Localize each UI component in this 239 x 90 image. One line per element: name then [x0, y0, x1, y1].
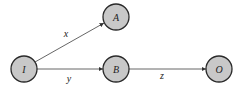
edge-label-z: z	[159, 70, 164, 81]
node-i: I	[11, 56, 37, 82]
node-label-i: I	[21, 64, 26, 75]
node-label-o: O	[215, 64, 222, 75]
node-o: O	[206, 56, 232, 82]
node-label-a: A	[112, 12, 120, 23]
edge-label-x: x	[63, 28, 69, 39]
node-label-b: B	[113, 64, 119, 75]
graph-canvas: x y z I A B O	[0, 0, 239, 90]
node-a: A	[103, 4, 129, 30]
edge-label-y: y	[66, 73, 72, 84]
edge-i-to-a	[35, 23, 104, 62]
node-b: B	[103, 56, 129, 82]
